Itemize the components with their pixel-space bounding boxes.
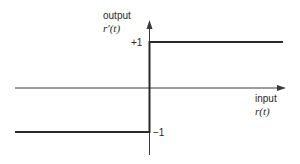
x-axis-label: input <box>255 93 277 104</box>
y-axis-symbol: r′(t) <box>103 22 120 35</box>
y-axis-arrow-icon <box>147 20 153 29</box>
transfer-function-diagram: output r′(t) +1 input r(t) −1 <box>0 0 300 164</box>
x-axis-arrow-icon <box>277 85 286 91</box>
y-axis-label: output <box>103 10 131 21</box>
x-axis-symbol: r(t) <box>255 105 270 118</box>
low-level-label: −1 <box>153 127 165 138</box>
step-curve <box>15 42 283 132</box>
high-level-label: +1 <box>131 37 143 48</box>
